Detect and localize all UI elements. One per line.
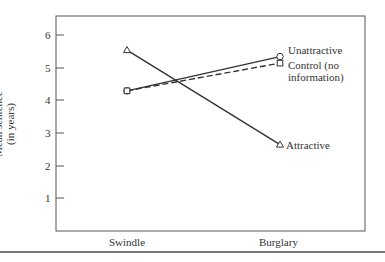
square-marker xyxy=(124,88,130,94)
legend-control-line1: Control (no xyxy=(288,59,339,71)
y-tick-label-3: 3 xyxy=(45,127,51,139)
y-tick-label-6: 6 xyxy=(45,29,51,41)
triangle-marker xyxy=(124,47,131,53)
y-axis-label: Mean sentence (in years) xyxy=(0,84,16,164)
legend-control-line2: information) xyxy=(288,71,344,83)
triangle-marker xyxy=(277,141,284,147)
bottom-rule xyxy=(0,251,385,253)
series-layer xyxy=(124,47,284,148)
legend-attractive: Attractive xyxy=(286,139,330,151)
y-axis-label-line2: (in years) xyxy=(4,84,16,164)
line-chart xyxy=(0,0,385,262)
y-tick-label-4: 4 xyxy=(45,94,51,106)
x-tick-label-swindle: Swindle xyxy=(109,236,145,248)
series-square xyxy=(124,60,283,93)
y-ticks xyxy=(56,35,64,198)
y-tick-label-1: 1 xyxy=(45,192,51,204)
x-tick-label-burglary: Burglary xyxy=(259,236,298,248)
square-marker xyxy=(277,60,283,66)
circle-marker xyxy=(277,53,283,59)
series-circle xyxy=(124,53,283,94)
legend-unattractive: Unattractive xyxy=(288,44,342,56)
y-tick-label-2: 2 xyxy=(45,160,51,172)
y-tick-label-5: 5 xyxy=(45,62,51,74)
